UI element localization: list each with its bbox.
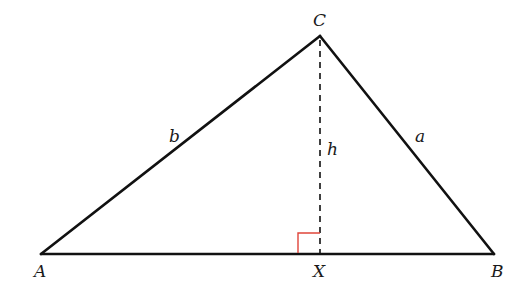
side-a bbox=[320, 36, 494, 254]
foot-label-x: X bbox=[311, 261, 326, 281]
side-b bbox=[41, 36, 320, 254]
vertex-label-b: B bbox=[490, 261, 504, 281]
side-label-a: a bbox=[415, 126, 425, 146]
altitude-label-h: h bbox=[327, 139, 338, 159]
triangle-diagram: C A B X b a h bbox=[0, 0, 525, 289]
vertex-label-a: A bbox=[32, 261, 46, 281]
vertex-label-c: C bbox=[313, 10, 326, 30]
right-angle-marker bbox=[298, 233, 320, 253]
side-label-b: b bbox=[169, 126, 180, 146]
